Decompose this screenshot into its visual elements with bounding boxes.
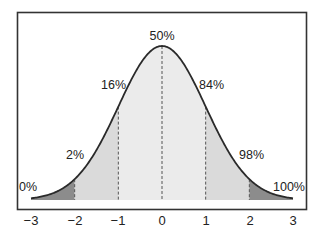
percentile-label-100: 100% [273,180,305,194]
x-tick-label: −3 [24,213,39,228]
percentile-label-50: 50% [149,29,174,43]
x-tick-label: 2 [246,213,253,228]
percentile-label-84: 84% [199,78,224,92]
percentile-label-0: 0% [19,180,37,194]
x-axis-tick-labels: −3 −2 −1 0 1 2 3 [24,213,297,228]
percentile-label-16: 16% [101,78,126,92]
x-tick-label: 1 [202,213,209,228]
percentile-label-2: 2% [66,148,84,162]
percentile-label-98: 98% [239,148,264,162]
x-tick-label: 0 [158,213,165,228]
x-tick-label: −2 [68,213,83,228]
normal-distribution-chart: 0% 2% 16% 50% 84% 98% 100% −3 −2 −1 0 1 … [0,0,324,240]
x-tick-label: −1 [111,213,126,228]
x-tick-label: 3 [289,213,296,228]
